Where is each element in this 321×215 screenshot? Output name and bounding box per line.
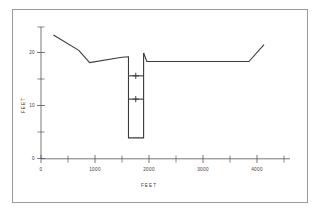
y-tick-label-10: 10 xyxy=(29,103,35,108)
x-tick-label-2000: 2000 xyxy=(143,167,155,172)
profile-data-layer xyxy=(53,35,264,138)
x-tick-label-4000: 4000 xyxy=(251,167,263,172)
x-tick-label-1000: 1000 xyxy=(89,167,101,172)
y-axis-title: FEET xyxy=(21,97,26,113)
x-axis xyxy=(41,155,290,163)
x-tick-label-3000: 3000 xyxy=(197,167,209,172)
x-tick-label-0: 0 xyxy=(40,167,43,172)
cross-section-chart: 0 10 20 FEET 0 1000 2000 3000 4000 FEET xyxy=(0,0,321,215)
y-axis xyxy=(37,27,45,159)
upper-level-line xyxy=(128,73,143,79)
ground-surface-left xyxy=(53,35,128,76)
x-axis-title: FEET xyxy=(141,183,157,188)
y-tick-label-0: 0 xyxy=(32,156,35,161)
trench-cut xyxy=(128,53,143,138)
lower-level-line xyxy=(128,96,143,102)
y-tick-label-20: 20 xyxy=(29,50,35,55)
figure-page: 0 10 20 FEET 0 1000 2000 3000 4000 FEET xyxy=(0,0,321,215)
ground-surface-right xyxy=(144,45,264,62)
